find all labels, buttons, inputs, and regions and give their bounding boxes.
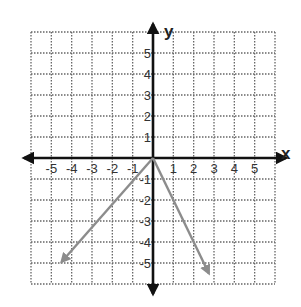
y-axis-label: y (164, 22, 174, 41)
x-tick-label: -1 (127, 161, 139, 176)
x-tick-label: 4 (231, 161, 238, 176)
y-tick-label: 5 (144, 46, 151, 61)
x-tick-label: -5 (46, 161, 58, 176)
coordinate-plane: -5-4-3-2-11234554321-1-2-3-4-5 x y (0, 0, 301, 307)
x-axis-label: x (281, 144, 291, 163)
x-tick-label: 1 (170, 161, 177, 176)
x-tick-label: -3 (86, 161, 98, 176)
y-tick-label: -3 (139, 214, 151, 229)
y-tick-label: 2 (144, 109, 151, 124)
x-tick-label: 2 (190, 161, 197, 176)
y-tick-label: -2 (139, 193, 151, 208)
x-tick-label: -4 (66, 161, 78, 176)
y-tick-label: 4 (144, 67, 151, 82)
right-ray (153, 158, 209, 274)
y-tick-label: -5 (139, 256, 151, 271)
axes (24, 24, 286, 294)
x-tick-label: 5 (251, 161, 258, 176)
y-tick-label: 3 (144, 88, 151, 103)
y-tick-label: -4 (139, 235, 151, 250)
y-tick-label: -1 (139, 172, 151, 187)
x-tick-label: -2 (107, 161, 119, 176)
x-tick-label: 3 (210, 161, 217, 176)
y-tick-label: 1 (144, 130, 151, 145)
